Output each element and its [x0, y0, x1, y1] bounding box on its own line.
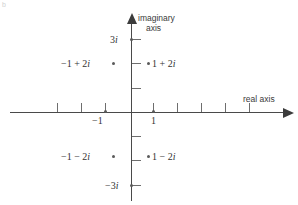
- imaginary-axis-tick: [132, 88, 141, 89]
- corner-mark: b: [2, 1, 6, 8]
- imaginary-axis-tick: [132, 39, 141, 40]
- imaginary-axis-line: [131, 24, 132, 201]
- point-label-pos1-minus-2i: 1 − 2i: [152, 151, 175, 162]
- point-label-neg1-plus-2i: −1 + 2i: [61, 58, 90, 69]
- tick-point-pos-1: [152, 110, 155, 113]
- imaginary-axis-tick: [132, 136, 141, 137]
- tick-point-neg-3i: [130, 184, 133, 187]
- point-neg1-minus-2i: [112, 155, 115, 158]
- real-axis-arrowhead: [283, 108, 294, 118]
- real-axis-tick: [225, 103, 226, 112]
- tick-label-pos-1: 1: [151, 115, 156, 126]
- imaginary-axis-arrowhead: [127, 13, 137, 24]
- point-label-neg1-minus-2i: −1 − 2i: [61, 151, 90, 162]
- real-axis-label: real axis: [243, 94, 275, 104]
- imaginary-axis-label-line2: axis: [146, 23, 161, 33]
- imaginary-axis-tick: [132, 160, 141, 161]
- real-axis-tick: [177, 103, 178, 112]
- real-axis-tick: [81, 103, 82, 112]
- point-pos1-minus-2i: [147, 155, 150, 158]
- real-axis-line: [10, 112, 290, 113]
- imaginary-axis-tick: [132, 185, 141, 186]
- tick-label-3i: 3i: [110, 34, 118, 45]
- point-pos1-plus-2i: [147, 62, 150, 65]
- real-axis-tick: [57, 103, 58, 112]
- tick-point-neg-1: [104, 110, 107, 113]
- real-axis-tick: [201, 103, 202, 112]
- point-label-pos1-plus-2i: 1 + 2i: [152, 58, 175, 69]
- complex-plane-figure: b real axis imaginary axis 3i −3i −1 1 −…: [0, 0, 298, 205]
- tick-label-neg-1: −1: [92, 115, 103, 126]
- tick-point-3i: [130, 38, 133, 41]
- point-neg1-plus-2i: [112, 62, 115, 65]
- imaginary-axis-label-line1: imaginary: [138, 13, 175, 23]
- imaginary-axis-tick: [132, 63, 141, 64]
- tick-label-neg-3i: −3i: [105, 180, 118, 191]
- real-axis-tick: [249, 103, 250, 112]
